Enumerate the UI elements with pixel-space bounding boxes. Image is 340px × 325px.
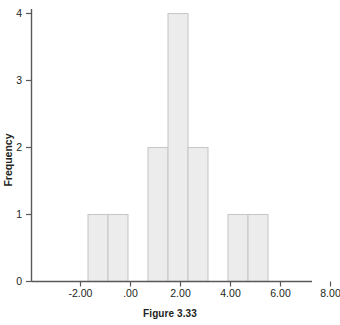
x-tick-label: -2.00	[69, 287, 93, 299]
histogram-bar	[168, 14, 188, 282]
histogram-chart: 0 1 2 3 4 -2.00 .00 2.00 4.00 6.00 8.00 …	[0, 0, 340, 325]
x-tick-label: 2.00	[170, 287, 191, 299]
y-axis-title: Frequency	[2, 133, 14, 186]
y-axis-labels: 0 1 2 3 4	[16, 7, 22, 287]
y-tick-label: 4	[16, 7, 22, 19]
histogram-bar	[188, 148, 208, 282]
x-axis-labels: -2.00 .00 2.00 4.00 6.00 8.00	[69, 287, 340, 299]
x-tick-label: 6.00	[270, 287, 291, 299]
y-axis-ticks	[26, 14, 32, 282]
x-tick-label: .00	[123, 287, 138, 299]
x-axis-ticks	[81, 282, 331, 287]
x-tick-label: 4.00	[220, 287, 241, 299]
y-tick-label: 1	[16, 208, 22, 220]
figure-caption: Figure 3.33	[0, 308, 340, 319]
x-tick-label: 8.00	[320, 287, 340, 299]
histogram-bar	[248, 215, 268, 282]
histogram-bar	[108, 215, 128, 282]
y-tick-label: 3	[16, 74, 22, 86]
bars-group	[88, 14, 268, 282]
histogram-bar	[148, 148, 168, 282]
histogram-bar	[228, 215, 248, 282]
histogram-figure: 0 1 2 3 4 -2.00 .00 2.00 4.00 6.00 8.00 …	[0, 0, 340, 325]
histogram-bar	[88, 215, 108, 282]
y-tick-label: 2	[16, 141, 22, 153]
y-tick-label: 0	[16, 275, 22, 287]
